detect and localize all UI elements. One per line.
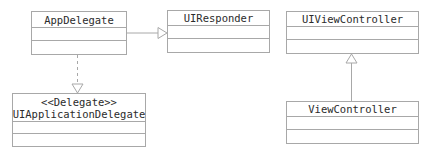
methods-section (168, 39, 269, 52)
attributes-section (168, 26, 269, 39)
realization-appdelegate-uiapplicationdelegate (72, 55, 83, 93)
class-ui-view-controller[interactable]: UIViewController (286, 11, 419, 54)
attributes-section (287, 27, 418, 40)
uml-diagram-canvas: AppDelegate UIResponder UIViewController… (0, 0, 429, 156)
hollow-triangle-arrow-icon (72, 84, 83, 93)
generalization-appdelegate-uiresponder (126, 28, 167, 39)
class-name: UIResponder (184, 12, 254, 24)
methods-section (13, 134, 145, 146)
methods-section (287, 40, 418, 53)
hollow-triangle-arrow-icon (346, 54, 357, 63)
attributes-section (32, 28, 126, 41)
methods-section (32, 41, 126, 54)
class-stereotype: <<Delegate>> (41, 96, 117, 108)
class-view-controller[interactable]: ViewController (286, 101, 419, 144)
class-name: ViewController (308, 103, 397, 115)
class-header: ViewController (287, 102, 418, 117)
class-header: AppDelegate (32, 12, 126, 28)
attributes-section (287, 117, 418, 130)
class-header: UIViewController (287, 12, 418, 27)
class-app-delegate[interactable]: AppDelegate (31, 11, 127, 55)
class-name: AppDelegate (44, 14, 114, 26)
class-name: UIViewController (302, 13, 403, 25)
hollow-triangle-arrow-icon (158, 28, 167, 39)
class-header: <<Delegate>> UIApplicationDelegate (13, 94, 145, 122)
methods-section (287, 130, 418, 143)
class-header: UIResponder (168, 11, 269, 26)
class-name: UIApplicationDelegate (13, 108, 146, 120)
attributes-section (13, 122, 145, 134)
generalization-viewcontroller-uiviewcontroller (346, 54, 357, 101)
class-ui-responder[interactable]: UIResponder (167, 10, 270, 53)
class-ui-application-delegate[interactable]: <<Delegate>> UIApplicationDelegate (12, 93, 146, 147)
